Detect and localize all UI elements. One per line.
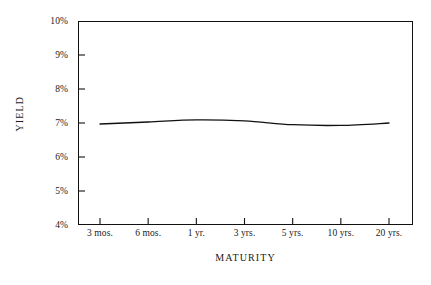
y-tick-label: 9% [55, 50, 68, 60]
y-axis-ticks [78, 55, 85, 191]
y-tick-label: 7% [55, 118, 68, 128]
y-tick-label: 5% [55, 186, 68, 196]
x-tick-label: 20 yrs. [376, 228, 403, 238]
x-axis-ticks [100, 218, 389, 225]
x-axis-tick-labels: 3 mos.6 mos.1 yr.3 yrs.5 yrs.10 yrs.20 y… [78, 228, 413, 244]
x-tick-label: 5 yrs. [282, 228, 304, 238]
y-tick-label: 4% [55, 220, 68, 230]
y-tick-label: 10% [50, 16, 68, 26]
plot-area [78, 21, 413, 225]
x-axis-title: MATURITY [78, 252, 413, 263]
yield-curve-line [100, 120, 389, 126]
y-axis-tick-labels: 10%9%8%7%6%5%4% [0, 21, 74, 225]
y-tick-label: 8% [55, 84, 68, 94]
x-tick-label: 1 yr. [188, 228, 205, 238]
yield-curve-chart: YIELD 10%9%8%7%6%5%4% 3 mos.6 mos.1 yr.3… [0, 0, 431, 285]
y-tick-label: 6% [55, 152, 68, 162]
x-tick-label: 6 mos. [135, 228, 161, 238]
x-tick-label: 3 mos. [87, 228, 113, 238]
x-tick-label: 10 yrs. [328, 228, 355, 238]
x-tick-label: 3 yrs. [234, 228, 256, 238]
